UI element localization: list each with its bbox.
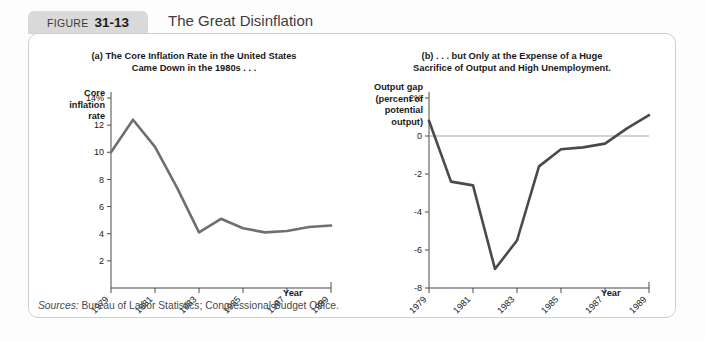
svg-text:-8: -8 [414, 283, 422, 293]
svg-text:4: 4 [99, 229, 104, 239]
chart-b-svg: -8-6-4-202%197919811983198519871989 [351, 42, 673, 314]
chart-b-x-axis-title: Year [601, 288, 621, 298]
chart-a-svg: 2468101214%197919811983198519871989 [33, 42, 355, 314]
svg-text:-2: -2 [414, 169, 422, 179]
figure-panel: (a) The Core Inflation Rate in the Unite… [28, 33, 676, 318]
sources-text: Bureau of Labor Statistics; Congressiona… [79, 300, 339, 311]
svg-text:-6: -6 [414, 245, 422, 255]
svg-text:12: 12 [94, 120, 104, 130]
figure-title: The Great Disinflation [168, 12, 313, 29]
svg-text:10: 10 [94, 147, 104, 157]
sources-note: Sources: Bureau of Labor Statistics; Con… [38, 300, 339, 311]
figure-number: 31-13 [94, 15, 129, 30]
chart-panel-b: (b) . . . but Only at the Expense of a H… [351, 42, 673, 314]
svg-text:1981: 1981 [451, 294, 472, 314]
svg-text:1989: 1989 [627, 294, 648, 314]
figure-tab: FIGURE 31-13 [28, 11, 148, 34]
sources-label: Sources: [38, 300, 79, 311]
svg-text:1985: 1985 [539, 294, 560, 314]
svg-text:1983: 1983 [495, 294, 516, 314]
svg-text:8: 8 [99, 175, 104, 185]
figure-word: FIGURE [47, 17, 88, 29]
svg-text:2: 2 [99, 256, 104, 266]
svg-text:6: 6 [99, 202, 104, 212]
chart-panel-a: (a) The Core Inflation Rate in the Unite… [33, 42, 355, 314]
svg-text:-4: -4 [414, 207, 422, 217]
figure-container: FIGURE 31-13 The Great Disinflation (a) … [0, 0, 705, 341]
svg-text:0: 0 [417, 131, 422, 141]
svg-text:2%: 2% [409, 93, 422, 103]
svg-text:1979: 1979 [407, 294, 428, 314]
chart-a-x-axis-title: Year [283, 288, 303, 298]
svg-text:14%: 14% [86, 93, 104, 103]
